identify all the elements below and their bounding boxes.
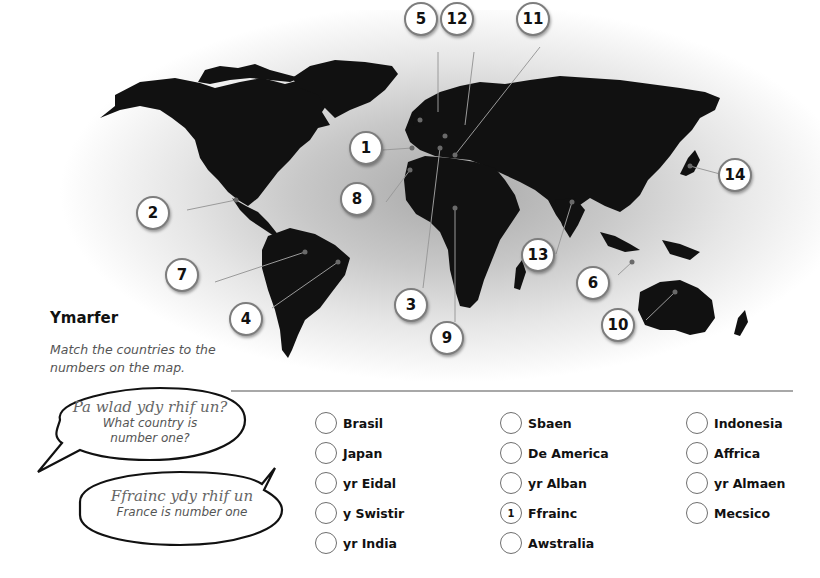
option-label: yr Alban: [528, 476, 587, 491]
answer-circle[interactable]: [315, 412, 337, 434]
map-marker-14: 14: [718, 158, 752, 192]
map-marker-11: 11: [516, 2, 550, 36]
option-indonesia[interactable]: Indonesia: [686, 410, 783, 436]
option-sbaen[interactable]: Sbaen: [500, 410, 572, 436]
australia: [638, 280, 715, 335]
south-america: [262, 228, 350, 358]
option-label: Mecsico: [714, 506, 770, 521]
marker-number: 5: [416, 10, 426, 28]
answer-bubble: Ffrainc ydy rhif un France is number one: [84, 487, 280, 520]
marker-number: 1: [361, 139, 371, 157]
option-yr-almaen[interactable]: yr Almaen: [686, 470, 785, 496]
question-welsh: Pa wlad ydy rhif un?: [58, 398, 242, 416]
option-yr-eidal[interactable]: yr Eidal: [315, 470, 396, 496]
option-label: Indonesia: [714, 416, 783, 431]
marker-number: 11: [523, 10, 544, 28]
map-marker-8: 8: [340, 182, 374, 216]
answer-circle[interactable]: [500, 472, 522, 494]
marker-number: 2: [148, 204, 158, 222]
option-brasil[interactable]: Brasil: [315, 410, 383, 436]
map-marker-3: 3: [394, 288, 428, 322]
option-label: Japan: [343, 446, 382, 461]
option-label: yr Almaen: [714, 476, 785, 491]
answer-circle[interactable]: [686, 472, 708, 494]
option-label: Brasil: [343, 416, 383, 431]
marker-number: 7: [177, 266, 187, 284]
map-marker-5: 5: [404, 2, 438, 36]
new-zealand: [734, 310, 748, 336]
north-america: [100, 78, 330, 206]
exercise-title: Ymarfer: [50, 309, 118, 327]
marker-number: 10: [608, 316, 629, 334]
marker-number: 4: [241, 310, 251, 328]
option-awstralia[interactable]: Awstralia: [500, 530, 594, 556]
answer-english: France is number one: [84, 505, 280, 520]
japan: [680, 150, 700, 176]
option-yr-alban[interactable]: yr Alban: [500, 470, 587, 496]
option-label: yr Eidal: [343, 476, 396, 491]
exercise-instruction: Match the countries to the numbers on th…: [50, 341, 240, 377]
marker-number: 9: [442, 329, 452, 347]
answer-circle[interactable]: 1: [500, 502, 522, 524]
answer-circle[interactable]: [315, 472, 337, 494]
map-marker-9: 9: [430, 321, 464, 355]
marker-number: 12: [447, 10, 468, 28]
marker-number: 6: [588, 274, 598, 292]
answer-circle[interactable]: [500, 532, 522, 554]
answer-welsh: Ffrainc ydy rhif un: [84, 487, 280, 505]
answer-circle[interactable]: [500, 442, 522, 464]
option-affrica[interactable]: Affrica: [686, 440, 760, 466]
option-y-swistir[interactable]: y Swistir: [315, 500, 404, 526]
africa: [404, 156, 520, 308]
indonesia: [600, 232, 640, 252]
answer-circle[interactable]: [315, 532, 337, 554]
marker-number: 8: [352, 190, 362, 208]
marker-number: 3: [406, 296, 416, 314]
option-label: Sbaen: [528, 416, 572, 431]
option-mecsico[interactable]: Mecsico: [686, 500, 770, 526]
question-bubble: Pa wlad ydy rhif un? What country is num…: [58, 398, 242, 446]
option-ffrainc[interactable]: 1Ffrainc: [500, 500, 577, 526]
option-de-america[interactable]: De America: [500, 440, 609, 466]
map-marker-12: 12: [440, 2, 474, 36]
option-label: Awstralia: [528, 536, 594, 551]
option-label: Affrica: [714, 446, 760, 461]
map-marker-10: 10: [601, 308, 635, 342]
marker-number: 13: [528, 246, 549, 264]
option-yr-india[interactable]: yr India: [315, 530, 397, 556]
marker-number: 14: [725, 166, 746, 184]
question-english: What country is number one?: [58, 416, 242, 446]
option-label: y Swistir: [343, 506, 404, 521]
map-marker-6: 6: [576, 266, 610, 300]
option-label: De America: [528, 446, 609, 461]
answer-circle[interactable]: [686, 502, 708, 524]
answer-circle[interactable]: [686, 412, 708, 434]
map-marker-4: 4: [229, 302, 263, 336]
option-label: Ffrainc: [528, 506, 577, 521]
answer-circle[interactable]: [500, 412, 522, 434]
option-label: yr India: [343, 536, 397, 551]
answer-circle[interactable]: [686, 442, 708, 464]
map-marker-1: 1: [349, 131, 383, 165]
answer-circle[interactable]: [315, 502, 337, 524]
answer-circle[interactable]: [315, 442, 337, 464]
new-guinea: [662, 240, 700, 260]
map-marker-2: 2: [136, 196, 170, 230]
map-marker-7: 7: [165, 258, 199, 292]
divider: [231, 390, 793, 392]
option-japan[interactable]: Japan: [315, 440, 382, 466]
map-marker-13: 13: [521, 238, 555, 272]
